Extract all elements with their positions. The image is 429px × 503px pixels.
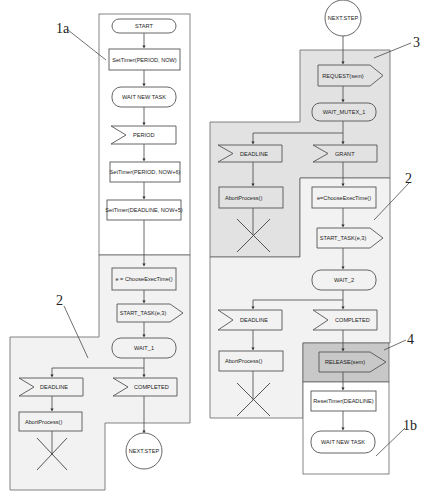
- release-label: RELEASE(sem): [325, 359, 365, 365]
- period-label: PERIOD: [133, 132, 154, 138]
- next-step-connector-right[interactable]: NEXT.STEP: [325, 0, 361, 36]
- set-timer-period-now6[interactable]: SetTimer(PERIOD, NOW+6): [110, 162, 181, 182]
- wait-2-state[interactable]: WAIT_2: [312, 270, 376, 290]
- ref-label-1a: 1a: [56, 21, 70, 36]
- start-task-right-label: START_TASK(e,3): [320, 235, 367, 241]
- wait-2-label: WAIT_2: [334, 277, 354, 283]
- abort-process-right-2[interactable]: AbortProcess(): [219, 351, 283, 371]
- ref-label-2-left: 2: [56, 293, 63, 308]
- set-timer-period-now[interactable]: SetTimer(PERIOD, NOW): [109, 49, 180, 70]
- start-task-output-left[interactable]: START_TASK(e,3): [117, 304, 183, 322]
- grant-label: GRANT: [335, 151, 355, 157]
- ref-label-3: 3: [413, 35, 420, 50]
- wait-mutex-1-state[interactable]: WAIT_MUTEX_1: [312, 103, 376, 121]
- abort-right-1-label: AbortProcess(): [225, 195, 262, 201]
- choose-exec-time-right[interactable]: e=ChooseExecTime(): [312, 187, 376, 208]
- start-terminal[interactable]: START: [112, 19, 176, 33]
- request-label: REQUEST(sem): [322, 73, 363, 79]
- set-timer-deadline-now5[interactable]: SetTimer(DEADLINE, NOW+5): [105, 200, 182, 220]
- request-sem-output[interactable]: REQUEST(sem): [318, 65, 383, 86]
- wait-new-task-right-label: WAIT NEW TASK: [321, 439, 365, 445]
- deadline-right-2-label: DEADLINE: [240, 317, 268, 323]
- next-step-connector-left[interactable]: NEXT.STEP: [126, 433, 162, 469]
- wait-1-label: WAIT_1: [134, 345, 154, 351]
- reset-timer-label: ResetTimer(DEADLINE): [313, 398, 374, 404]
- choose-exec-left-label: e = ChooseExecTime(): [115, 276, 172, 282]
- completed-right-label: COMPLETED: [335, 317, 370, 323]
- reset-timer-deadline[interactable]: ResetTimer(DEADLINE): [311, 391, 376, 411]
- start-label: START: [135, 23, 153, 29]
- abort-process-left[interactable]: AbortProcess(): [19, 412, 82, 431]
- ref-label-4: 4: [407, 332, 414, 347]
- next-step-left-label: NEXT.STEP: [129, 448, 160, 454]
- ref-label-1b: 1b: [403, 418, 417, 433]
- start-task-left-label: START_TASK(e,3): [120, 310, 167, 316]
- wait-new-task-label: WAIT NEW TASK: [122, 94, 166, 100]
- wait-new-task-state[interactable]: WAIT NEW TASK: [112, 87, 176, 107]
- deadline-right-1-label: DEADLINE: [240, 151, 268, 157]
- abort-right-2-label: AbortProcess(): [225, 358, 262, 364]
- wait-mutex-label: WAIT_MUTEX_1: [323, 109, 366, 115]
- abort-process-right-1[interactable]: AbortProcess(): [219, 187, 283, 208]
- start-task-output-right[interactable]: START_TASK(e,3): [317, 228, 383, 248]
- choose-exec-time-left[interactable]: e = ChooseExecTime(): [112, 268, 176, 290]
- set-timer-2-label: SetTimer(PERIOD, NOW+6): [110, 169, 181, 175]
- next-step-right-label: NEXT.STEP: [328, 15, 359, 21]
- completed-left-label: COMPLETED: [134, 384, 169, 390]
- wait-1-state[interactable]: WAIT_1: [112, 338, 176, 358]
- set-timer-1-label: SetTimer(PERIOD, NOW): [112, 57, 177, 63]
- set-timer-3-label: SetTimer(DEADLINE, NOW+5): [105, 207, 182, 213]
- wait-new-task-state-right[interactable]: WAIT NEW TASK: [311, 431, 375, 453]
- abort-left-label: AbortProcess(): [25, 419, 62, 425]
- choose-exec-right-label: e=ChooseExecTime(): [317, 195, 371, 201]
- deadline-left-label: DEADLINE: [40, 384, 68, 390]
- flowchart-canvas: 1a 2 3 2 4 1b START: [0, 0, 429, 503]
